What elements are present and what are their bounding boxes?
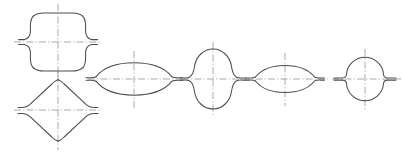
lower-right-edge [59,114,98,142]
lower-outline [34,44,98,71]
lower-left-outline [181,80,214,109]
lower-arc [256,80,325,92]
profile-shapes-canvas [0,0,403,155]
lower-left-edge [18,114,57,142]
upper-right-edge [59,80,98,108]
shape-vertical-oval-profile [181,42,246,117]
lower-right-outline [213,80,246,109]
upper-right-outline [365,57,396,78]
lower-left-outline [19,44,34,68]
upper-right-outline [213,49,246,78]
upper-arc [96,63,182,78]
lower-right-outline [365,80,396,101]
upper-left-outline [181,49,214,78]
shape-rounded-rectangle-profile [14,4,102,80]
lower-left-flange [246,80,256,81]
upper-arc [256,66,325,78]
lower-left-outline [334,80,365,101]
upper-outline [34,13,98,40]
lower-left-flange [86,80,96,81]
shape-flat-lens-profile [243,53,328,106]
shape-diamond-rhombus-profile [14,72,102,150]
technical-drawing-figure [0,0,403,155]
upper-left-outline [19,16,34,40]
upper-left-outline [334,57,365,78]
shape-wide-lens-profile [86,51,182,108]
shape-circular-profile [332,49,401,110]
upper-left-edge [18,80,57,108]
upper-left-flange [246,77,256,78]
upper-left-flange [86,77,96,78]
lower-arc [96,80,182,95]
